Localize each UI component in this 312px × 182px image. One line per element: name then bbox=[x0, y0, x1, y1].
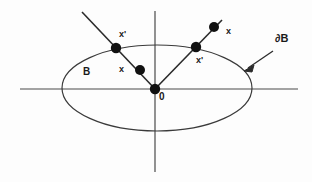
boundary-pointer-arrow-head bbox=[244, 65, 254, 72]
diagram-canvas bbox=[0, 0, 312, 182]
left-inner-point bbox=[135, 65, 145, 75]
boundary-pointer-arrow-shaft bbox=[248, 51, 273, 68]
right-boundary-point bbox=[191, 42, 201, 52]
left-boundary-point bbox=[111, 43, 121, 53]
right-outer-point-label: x bbox=[226, 27, 231, 36]
origin-label: 0 bbox=[159, 92, 165, 102]
math-diagram-figure: 0 B ∂B x' x x' x bbox=[0, 0, 312, 182]
right-outer-point bbox=[209, 22, 219, 32]
right-boundary-point-label: x' bbox=[196, 56, 203, 65]
region-B-label: B bbox=[83, 67, 90, 77]
left-boundary-point-label: x' bbox=[119, 30, 126, 39]
left-inner-point-label: x bbox=[119, 65, 124, 74]
boundary-dB-label: ∂B bbox=[275, 33, 288, 44]
